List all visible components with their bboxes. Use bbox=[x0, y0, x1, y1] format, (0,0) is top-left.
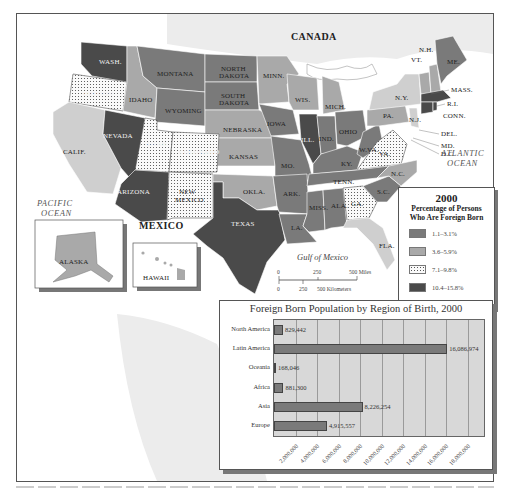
bar bbox=[274, 344, 447, 354]
chart-plot-area: 829,44216,086,974168,046881,3008,226,254… bbox=[273, 319, 485, 437]
svg-text:WASH.: WASH. bbox=[99, 58, 122, 66]
x-tick-label: 8,000,000 bbox=[342, 443, 363, 464]
map-legend: 2000 Percentage of Persons Who Are Forei… bbox=[398, 187, 495, 309]
svg-text:ILL.: ILL. bbox=[301, 136, 314, 144]
svg-text:KANSAS: KANSAS bbox=[229, 153, 258, 161]
svg-text:S.C.: S.C. bbox=[377, 188, 390, 196]
gridline bbox=[468, 320, 469, 436]
bar-value-label: 16,086,974 bbox=[449, 345, 478, 352]
svg-text:PA.: PA. bbox=[383, 112, 394, 120]
svg-text:DAKOTA: DAKOTA bbox=[219, 99, 249, 107]
svg-text:TEXAS: TEXAS bbox=[231, 220, 255, 228]
bar-value-label: 829,442 bbox=[285, 326, 306, 333]
x-tick-label: 4,000,000 bbox=[299, 443, 320, 464]
x-tick-label: 10,000,000 bbox=[362, 443, 385, 466]
svg-text:ME.: ME. bbox=[447, 58, 460, 66]
x-tick-label: 14,000,000 bbox=[405, 443, 428, 466]
legend-swatch bbox=[409, 283, 426, 292]
bar-value-label: 4,915,557 bbox=[329, 422, 355, 429]
gridline bbox=[403, 320, 404, 436]
bar bbox=[274, 325, 283, 335]
legend-swatch bbox=[409, 265, 426, 274]
gridline bbox=[425, 320, 426, 436]
bar-value-label: 8,226,254 bbox=[365, 403, 391, 410]
svg-text:CONN.: CONN. bbox=[443, 112, 466, 120]
svg-text:R.I.: R.I. bbox=[447, 100, 458, 108]
svg-text:0: 0 bbox=[277, 269, 280, 275]
svg-text:N.J.: N.J. bbox=[409, 116, 421, 124]
category-label: Oceania bbox=[249, 363, 270, 370]
alaska-inset: ALASKA bbox=[35, 220, 127, 292]
svg-text:TENN.: TENN. bbox=[333, 178, 354, 186]
legend-item: 7.1–9.8% bbox=[409, 262, 494, 276]
svg-text:250: 250 bbox=[313, 269, 322, 275]
svg-text:VT.: VT. bbox=[411, 56, 422, 64]
svg-text:DAKOTA: DAKOTA bbox=[219, 72, 249, 80]
canada-label: CANADA bbox=[291, 31, 337, 42]
chart-title: Foreign Born Population by Region of Bir… bbox=[220, 303, 492, 314]
atlantic-label-1: ATLANTIC bbox=[440, 148, 484, 158]
legend-item: 10.4–15.8% bbox=[409, 280, 494, 294]
gridline bbox=[446, 320, 447, 436]
legend-subtitle-1: Percentage of Persons bbox=[399, 204, 494, 213]
x-tick-label: 6,000,000 bbox=[321, 443, 342, 464]
svg-text:ARK.: ARK. bbox=[283, 190, 300, 198]
gridline bbox=[382, 320, 383, 436]
bar bbox=[274, 402, 363, 412]
svg-text:IOWA: IOWA bbox=[267, 120, 286, 128]
legend-subtitle-2: Who Are Foreign Born bbox=[399, 213, 494, 222]
gridline bbox=[317, 320, 318, 436]
svg-text:500 Kilometers: 500 Kilometers bbox=[317, 286, 351, 292]
svg-text:OKLA.: OKLA. bbox=[243, 188, 265, 196]
svg-text:UTAH: UTAH bbox=[147, 140, 167, 148]
svg-text:ALASKA: ALASKA bbox=[59, 258, 89, 266]
svg-text:WYOMING: WYOMING bbox=[165, 107, 202, 115]
svg-text:NEVADA: NEVADA bbox=[103, 132, 133, 140]
category-label: Latin America bbox=[233, 344, 270, 351]
svg-text:COLORADO: COLORADO bbox=[179, 148, 220, 156]
state-ri bbox=[433, 102, 437, 111]
svg-text:MEXICO: MEXICO bbox=[175, 196, 204, 204]
svg-text:N.C.: N.C. bbox=[391, 170, 405, 178]
svg-text:OREGON: OREGON bbox=[83, 90, 113, 98]
svg-text:N.Y.: N.Y. bbox=[395, 94, 409, 102]
svg-text:ARIZONA: ARIZONA bbox=[117, 188, 150, 196]
atlantic-label-2: OCEAN bbox=[447, 158, 479, 168]
svg-text:ALA.: ALA. bbox=[331, 202, 348, 210]
svg-text:MICH.: MICH. bbox=[325, 103, 346, 111]
legend-swatch bbox=[409, 247, 426, 256]
svg-text:IND.: IND. bbox=[319, 135, 334, 143]
foreign-born-bar-chart: Foreign Born Population by Region of Bir… bbox=[219, 300, 493, 470]
category-label: Asia bbox=[258, 402, 270, 409]
legend-item: 3.6–5.9% bbox=[409, 244, 494, 258]
x-tick-label: 16,000,000 bbox=[426, 443, 449, 466]
state-ct bbox=[421, 102, 433, 114]
bar-value-label: 168,046 bbox=[278, 364, 299, 371]
svg-text:GA.: GA. bbox=[351, 200, 364, 208]
svg-text:W.VA.: W.VA. bbox=[359, 146, 379, 154]
svg-text:HAWAII: HAWAII bbox=[143, 274, 170, 282]
svg-text:500 Miles: 500 Miles bbox=[349, 269, 371, 275]
svg-text:MISS.: MISS. bbox=[309, 204, 328, 212]
caption-text bbox=[16, 484, 494, 490]
svg-text:NEW: NEW bbox=[179, 188, 196, 196]
svg-text:CALIF.: CALIF. bbox=[63, 148, 86, 156]
svg-text:0: 0 bbox=[277, 286, 280, 292]
state-vt bbox=[419, 72, 431, 94]
x-tick-label: 18,000,000 bbox=[448, 443, 471, 466]
legend-title: 2000 bbox=[399, 192, 494, 204]
svg-text:MINN.: MINN. bbox=[263, 72, 284, 80]
category-label: Africa bbox=[253, 383, 270, 390]
gulf-label: Gulf of Mexico bbox=[297, 252, 348, 262]
bar bbox=[274, 383, 283, 393]
svg-text:WIS.: WIS. bbox=[295, 96, 310, 104]
hawaii-inset: HAWAII bbox=[133, 243, 201, 291]
gridline bbox=[296, 320, 297, 436]
svg-text:250: 250 bbox=[299, 286, 308, 292]
pacific-label-1: PACIFIC bbox=[36, 198, 73, 208]
svg-text:LA.: LA. bbox=[291, 224, 303, 232]
category-label: Europe bbox=[251, 421, 270, 428]
svg-text:MASS.: MASS. bbox=[451, 86, 473, 94]
pacific-label-2: OCEAN bbox=[41, 208, 73, 218]
mexico-label: MEXICO bbox=[139, 220, 184, 231]
